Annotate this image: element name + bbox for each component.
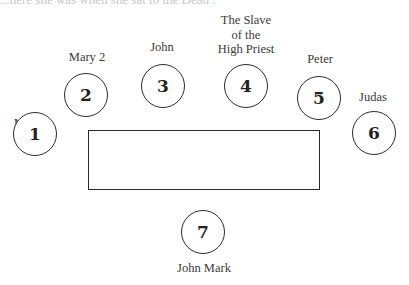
- seat-number: 6: [368, 123, 380, 143]
- cropped-header-text: ...here she was when she sat to the Dead…: [0, 0, 215, 4]
- seat-label-slave-of-high-priest: The Slave of the High Priest: [218, 13, 275, 57]
- seat-1-circle: 1: [13, 112, 57, 156]
- seat-number: 4: [240, 76, 252, 96]
- seat-number: 3: [157, 76, 169, 96]
- seat-name: Judas: [359, 90, 387, 104]
- seat-label-john: John: [150, 40, 174, 55]
- seat-name: John Mark: [177, 261, 231, 275]
- seat-number: 5: [313, 88, 325, 108]
- seat-2-circle: 2: [64, 73, 108, 117]
- seat-7-circle: 7: [181, 210, 225, 254]
- seat-number: 1: [29, 124, 41, 144]
- seat-label-mary-2: Mary 2: [69, 50, 105, 65]
- table-rectangle: [88, 130, 320, 190]
- seat-name-line: of the: [218, 28, 275, 43]
- seat-label-peter: Peter: [307, 52, 333, 67]
- seat-number: 2: [80, 85, 92, 105]
- seat-name: John: [150, 40, 174, 54]
- seat-name-line: High Priest: [218, 42, 275, 57]
- seat-label-john-mark: John Mark: [177, 261, 231, 276]
- seat-label-judas: Judas: [359, 90, 387, 105]
- seat-5-circle: 5: [297, 76, 341, 120]
- seat-name: Mary 2: [69, 50, 105, 64]
- seat-name-line: The Slave: [218, 13, 275, 28]
- seat-3-circle: 3: [141, 64, 185, 108]
- seat-6-circle: 6: [352, 111, 396, 155]
- seat-number: 7: [197, 222, 209, 242]
- seat-4-circle: 4: [224, 64, 268, 108]
- seat-name: Peter: [307, 52, 333, 66]
